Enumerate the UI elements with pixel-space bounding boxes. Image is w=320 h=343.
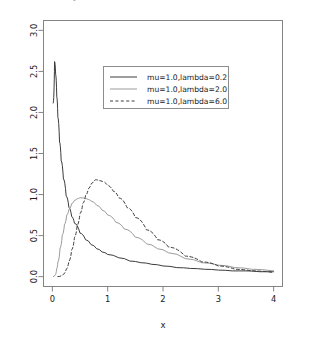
legend-label-1: mu=1.0,lambda=2.0 <box>147 85 227 94</box>
legend-label-0: mu=1.0,lambda=0.2 <box>147 73 227 82</box>
x-tick-label: 3 <box>216 294 221 304</box>
legend-label-2: mu=1.0,lambda=6.0 <box>147 97 227 106</box>
x-tick-label: 0 <box>50 294 55 304</box>
x-tick-label: 1 <box>105 294 110 304</box>
chart-figure: density of x 0.00.51.01.52.02.53.0 01234… <box>0 0 320 343</box>
y-tick-label: 1.0 <box>29 188 39 201</box>
y-tick-label: 1.5 <box>29 147 39 160</box>
x-axis: 01234 <box>50 287 277 304</box>
line-chart-canvas: 0.00.51.01.52.02.53.0 01234 x mu=1.0,lam… <box>0 0 320 343</box>
x-tick-label: 4 <box>271 294 276 304</box>
x-tick-label: 2 <box>160 294 165 304</box>
clipped-title-text: density of x <box>44 0 99 1</box>
y-axis: 0.00.51.01.52.02.53.0 <box>29 24 44 283</box>
y-tick-label: 0.5 <box>29 229 39 242</box>
chart-legend[interactable]: mu=1.0,lambda=0.2mu=1.0,lambda=2.0mu=1.0… <box>104 67 229 109</box>
plot-frame <box>44 21 283 287</box>
series-line-2 <box>58 180 274 277</box>
y-tick-label: 2.5 <box>29 65 39 78</box>
x-axis-title: x <box>160 320 165 330</box>
y-tick-label: 2.0 <box>29 106 39 119</box>
y-tick-label: 0.0 <box>29 270 39 283</box>
series-line-1 <box>53 198 273 277</box>
y-tick-label: 3.0 <box>29 24 39 37</box>
